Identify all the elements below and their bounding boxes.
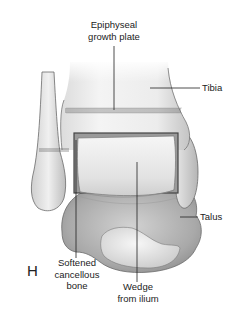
label-talus: Talus — [200, 211, 222, 223]
label-cancellous-bone: Softened cancellous bone — [50, 257, 104, 292]
panel-letter: H — [27, 262, 38, 279]
wedge-graft — [74, 133, 178, 204]
panel-letter-text: H — [27, 262, 38, 279]
label-wedge: Wedge from ilium — [110, 281, 166, 304]
label-wedge-line1: Wedge — [110, 281, 166, 293]
label-cancellous-line1: Softened — [50, 257, 104, 269]
label-talus-text: Talus — [200, 211, 222, 222]
label-tibia: Tibia — [202, 82, 222, 94]
label-cancellous-line3: bone — [50, 280, 104, 292]
label-cancellous-line2: cancellous — [50, 269, 104, 281]
label-growth-plate-line1: Epiphyseal — [84, 19, 144, 31]
label-growth-plate: Epiphyseal growth plate — [84, 19, 144, 42]
label-growth-plate-line2: growth plate — [84, 31, 144, 43]
label-wedge-line2: from ilium — [110, 293, 166, 305]
label-tibia-text: Tibia — [202, 82, 222, 93]
